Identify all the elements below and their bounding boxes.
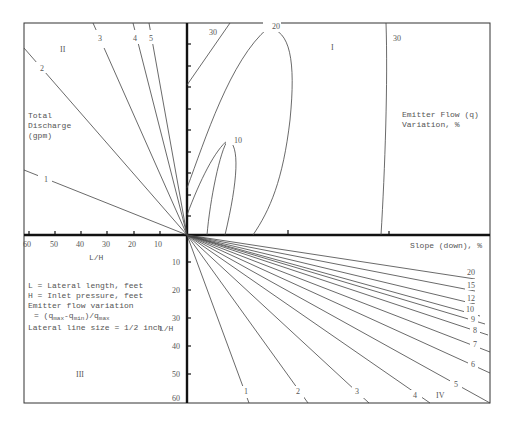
y-tick-10: 10	[172, 258, 180, 267]
slope-label-2: 2	[296, 387, 300, 396]
contour-label-10: 10	[234, 136, 242, 145]
slope-line-1	[187, 235, 249, 403]
note-lateral-length: L = Lateral length, feet	[28, 281, 143, 290]
slope-title: Slope (down), %	[410, 241, 482, 250]
slope-label-4: 4	[413, 391, 417, 400]
contour-30-right	[381, 23, 387, 235]
emitter-flow-label-1: Emitter Flow (q)	[402, 110, 479, 119]
slope-label-12: 12	[467, 294, 475, 303]
slope-line-4	[187, 235, 430, 403]
note-formula: = (qmax-qmin)/qmax	[34, 311, 110, 322]
discharge-label-5: 5	[149, 34, 153, 43]
y-tick-50: 50	[172, 370, 180, 379]
slope-line-2	[187, 235, 308, 403]
slope-line-7	[187, 235, 490, 352]
note-emitter-flow-variation: Emitter flow variation	[28, 301, 134, 310]
discharge-line-2	[24, 48, 187, 235]
discharge-label-3: 3	[98, 34, 102, 43]
emitter-variation-contours	[187, 23, 387, 235]
y-tick-40: 40	[172, 342, 180, 351]
emitter-flow-label-2: Variation, %	[402, 120, 460, 129]
note-inlet-pressure: H = Inlet pressure, feet	[28, 291, 143, 300]
contour-10	[187, 140, 236, 235]
slope-label-20: 20	[467, 268, 475, 277]
y-tick-60: 60	[172, 394, 180, 403]
contour-20	[187, 28, 292, 235]
quadrant-ii-label: II	[60, 45, 66, 54]
x-tick-60: 60	[23, 240, 31, 249]
x-tick-40: 40	[76, 240, 84, 249]
discharge-label-4: 4	[133, 34, 137, 43]
quadrant-iii-label: III	[76, 370, 84, 379]
slope-label-9: 9	[471, 315, 475, 324]
slope-label-10: 10	[466, 305, 474, 314]
slope-label-7: 7	[473, 340, 477, 349]
slope-label-3: 3	[355, 387, 359, 396]
x-tick-20: 20	[128, 240, 136, 249]
contour-label-30-left: 30	[209, 28, 217, 37]
slope-line-5	[187, 235, 490, 403]
total-discharge-label-1: Total	[28, 111, 52, 120]
note-lateral-line-size: Lateral line size = 1/2 inch	[28, 323, 163, 332]
total-discharge-label-2: Discharge	[28, 121, 71, 130]
y-tick-30: 30	[172, 314, 180, 323]
contour-label-30-right: 30	[393, 34, 401, 43]
total-discharge-label-3: (gpm)	[28, 131, 52, 140]
discharge-label-1: 1	[44, 175, 48, 184]
discharge-line-5	[149, 23, 187, 235]
discharge-label-2: 2	[40, 64, 44, 73]
quadrant-iv-label: IV	[436, 391, 445, 400]
slope-line-6	[187, 235, 490, 373]
contour-label-20: 20	[272, 22, 280, 31]
x-tick-10: 10	[154, 240, 162, 249]
slope-label-6: 6	[471, 360, 475, 369]
slope-label-15: 15	[467, 281, 475, 290]
chart-frame	[24, 23, 490, 403]
x-axis-title-lh: L/H	[89, 253, 104, 262]
slope-label-5: 5	[454, 380, 458, 389]
x-tick-50: 50	[50, 240, 58, 249]
discharge-line-4	[133, 23, 187, 235]
slope-lines	[187, 235, 490, 403]
y-tick-20: 20	[172, 286, 180, 295]
contour-10-inner	[207, 140, 228, 235]
slope-label-8: 8	[473, 326, 477, 335]
slope-label-1: 1	[244, 387, 248, 396]
x-tick-30: 30	[102, 240, 110, 249]
quadrant-i-label: I	[331, 43, 334, 52]
nomograph-chart: II I III IV Total Discharge (gpm) Emitte…	[0, 0, 511, 424]
